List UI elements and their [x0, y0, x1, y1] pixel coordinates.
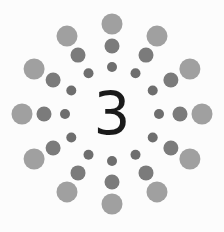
outer-dot — [102, 14, 123, 35]
inner-dot — [84, 68, 94, 78]
outer-dot — [179, 149, 200, 170]
outer-dot — [179, 59, 200, 80]
inner-dot — [107, 62, 117, 72]
center-numeral: 3 — [0, 84, 224, 144]
middle-dot — [139, 48, 154, 63]
outer-dot — [24, 59, 45, 80]
middle-dot — [105, 175, 120, 190]
outer-dot — [147, 26, 168, 47]
outer-dot — [57, 181, 78, 202]
radial-dot-figure: 3 — [0, 0, 224, 232]
middle-dot — [105, 39, 120, 54]
outer-dot — [24, 149, 45, 170]
outer-dot — [102, 194, 123, 215]
middle-dot — [71, 165, 86, 180]
middle-dot — [71, 48, 86, 63]
inner-dot — [107, 156, 117, 166]
middle-dot — [139, 165, 154, 180]
outer-dot — [147, 181, 168, 202]
outer-dot — [57, 26, 78, 47]
inner-dot — [131, 68, 141, 78]
inner-dot — [84, 150, 94, 160]
inner-dot — [131, 150, 141, 160]
